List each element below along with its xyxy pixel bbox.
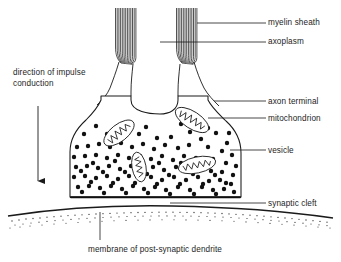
label-direction-of-impulse-conduction: direction of impulse conduction bbox=[13, 68, 87, 89]
label-synaptic-cleft: synaptic cleft bbox=[268, 199, 317, 210]
axon-terminal-outline bbox=[70, 96, 241, 197]
myelin-sheath-left bbox=[116, 8, 136, 64]
label-axoplasm: axoplasm bbox=[268, 37, 304, 48]
label-mitochondrion: mitochondrion bbox=[268, 114, 321, 125]
label-membrane-post-synaptic-dendrite: membrane of post-synaptic dendrite bbox=[88, 245, 222, 256]
myelin-sheath-right bbox=[177, 8, 197, 64]
label-myelin-sheath: myelin sheath bbox=[268, 18, 320, 29]
dendrite-stipple bbox=[9, 212, 330, 229]
label-vesicle: vesicle bbox=[268, 146, 294, 157]
synapse-diagram: myelin sheath axoplasm axon terminal mit… bbox=[0, 0, 341, 262]
label-axon-terminal: axon terminal bbox=[268, 97, 318, 108]
